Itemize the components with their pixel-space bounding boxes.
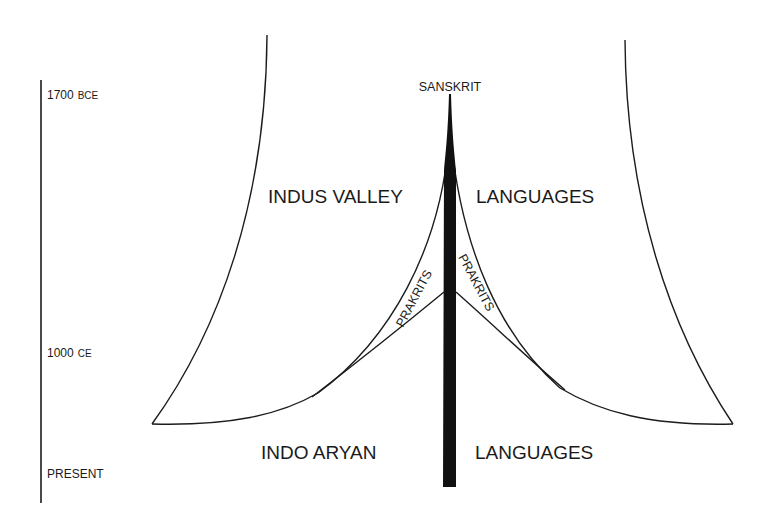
indus-languages-label: LANGUAGES [476, 186, 594, 207]
timeline-label-1000: 1000CE [47, 346, 92, 360]
sanskrit-stem [443, 94, 456, 487]
outer-left-curve [152, 35, 267, 424]
timeline-label-1700: 1700BCE [47, 88, 99, 102]
timeline-label-present: PRESENT [47, 467, 104, 481]
prakrit-inner-branches [312, 292, 565, 397]
outer-right-base [560, 388, 733, 424]
indo-aryan-label: INDO ARYAN [261, 442, 376, 463]
indus-valley-label: INDUS VALLEY [268, 186, 403, 207]
prakrit-right-inner-curve [456, 292, 565, 390]
prakrit-outer-branches [318, 140, 560, 393]
timeline: 1700BCE 1000CE PRESENT [41, 80, 104, 503]
indo-aryan-languages-label: LANGUAGES [475, 442, 593, 463]
diagram-canvas: 1700BCE 1000CE PRESENT SANSKRIT INDUS VA… [0, 0, 782, 528]
prakrits-right-label: PRAKRITS [455, 252, 497, 314]
prakrits-left-label: PRAKRITS [393, 268, 435, 330]
prakrit-left-outer-curve [318, 140, 449, 393]
prakrit-left-inner-curve [312, 292, 444, 397]
outer-right-curve [625, 40, 733, 424]
outer-left-base [152, 393, 318, 424]
sanskrit-label: SANSKRIT [419, 80, 482, 94]
